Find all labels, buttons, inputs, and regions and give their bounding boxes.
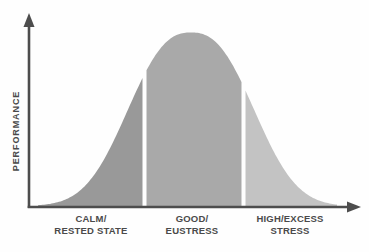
x-label-calm-rested: CALM/ RESTED STATE (54, 213, 127, 236)
curve-section-high-excess (246, 91, 338, 206)
x-label-line: HIGH/EXCESS (256, 213, 323, 225)
x-label-high-excess-stress: HIGH/EXCESS STRESS (256, 213, 323, 236)
x-label-good-eustress: GOOD/ EUSTRESS (166, 213, 219, 236)
x-label-line: GOOD/ (166, 213, 219, 225)
curve-section-good-eustress (147, 33, 242, 207)
y-axis-arrowhead (24, 13, 35, 27)
x-label-line: EUSTRESS (166, 225, 219, 237)
x-axis-arrowhead (347, 202, 361, 213)
x-label-line: RESTED STATE (54, 225, 127, 237)
y-axis-label: PERFORMANCE (11, 91, 21, 171)
x-label-line: CALM/ (54, 213, 127, 225)
x-label-line: STRESS (256, 225, 323, 237)
performance-stress-curve-figure: PERFORMANCE CALM/ RESTED STATE GOOD/ EUS… (0, 0, 369, 252)
curve-section-calm-rested (38, 78, 143, 206)
